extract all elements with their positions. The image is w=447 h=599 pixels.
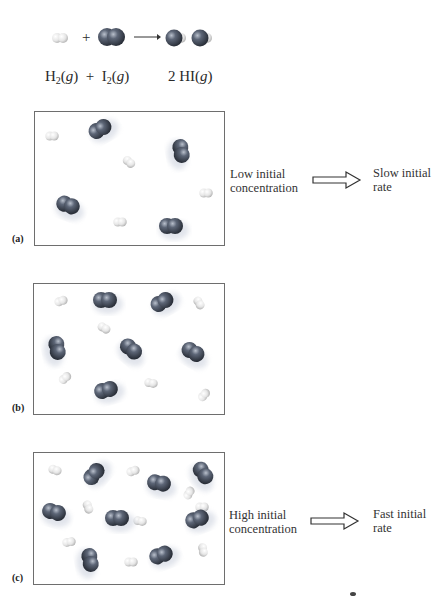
i2-molecule-icon [177, 499, 217, 539]
h2-molecule-icon [35, 450, 75, 490]
i2-molecule-icon [139, 463, 179, 503]
h2-molecule-icon [131, 363, 171, 403]
h2-molecule-icon [50, 30, 72, 46]
hi-molecule-icon [190, 28, 214, 48]
i2-molecule-icon [80, 109, 120, 149]
panel-c-label: (c) [12, 572, 23, 583]
h2-molecule-icon [184, 375, 224, 415]
stray-mark-icon [349, 591, 357, 597]
result-text-a: Slow initialrate [373, 166, 431, 194]
plus-sign: + [82, 29, 90, 46]
reaction-arrow-icon [133, 33, 161, 41]
i2-molecule-icon [173, 332, 213, 372]
reactant-h2: H2(g) [45, 68, 78, 84]
h2-molecule-icon [41, 281, 81, 321]
i2-molecule-icon [141, 535, 181, 575]
i2-molecule-icon [97, 26, 127, 48]
h2-molecule-icon [186, 173, 226, 213]
i2-molecule-icon [111, 329, 151, 369]
condition-text-a: Low initialconcentration [230, 167, 298, 195]
i2-molecule-icon [142, 282, 182, 322]
h2-molecule-icon [100, 202, 140, 242]
hollow-arrow-icon [312, 170, 362, 190]
i2-molecule-icon [97, 498, 137, 538]
i2-molecule-icon [37, 328, 77, 368]
condition-text-c: High initialconcentration [229, 508, 297, 536]
reactant-i2: I2(g) [102, 68, 130, 84]
i2-molecule-icon [151, 206, 191, 246]
hi-molecule-icon [164, 28, 188, 48]
i2-molecule-icon [34, 492, 74, 532]
i2-molecule-icon [86, 370, 126, 410]
result-text-c: Fast initialrate [373, 507, 426, 535]
plus-sign: + [86, 68, 94, 84]
i2-molecule-icon [85, 280, 125, 320]
i2-molecule-icon [70, 540, 110, 580]
hollow-arrow-icon [310, 511, 360, 531]
panel-b-label: (b) [12, 402, 24, 413]
h2-molecule-icon [179, 283, 219, 323]
h2-molecule-icon [32, 116, 72, 156]
reaction-equation: H2(g) + I2(g) [45, 68, 129, 86]
i2-molecule-icon [161, 131, 201, 171]
i2-molecule-icon [183, 453, 223, 493]
i2-molecule-icon [48, 185, 88, 225]
i2-molecule-icon [74, 454, 114, 494]
panel-a-label: (a) [12, 233, 24, 244]
product-hi: 2 HI(g) [168, 68, 213, 85]
